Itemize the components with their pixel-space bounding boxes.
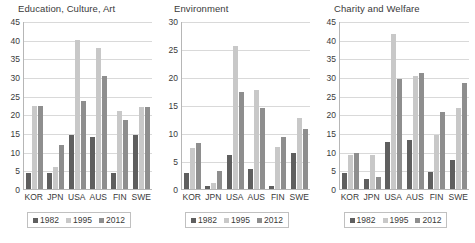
y-axis-tick: 20: [11, 110, 20, 120]
bar: [227, 155, 232, 189]
y-axis: 051015202530354045: [316, 22, 338, 190]
y-axis-tick: 35: [11, 54, 20, 64]
bar: [385, 142, 390, 189]
bar: [32, 106, 37, 189]
legend-item[interactable]: 1995: [224, 215, 250, 225]
bar-group: [67, 22, 88, 189]
y-axis-tick: 10: [327, 148, 336, 158]
plot-area: 051015202530354045: [316, 22, 475, 190]
bar: [96, 48, 101, 189]
bar-group: [225, 22, 246, 189]
bar: [53, 167, 58, 189]
bar: [190, 148, 195, 189]
plot-area: 051015202530354045: [0, 22, 158, 190]
legend-swatch-icon: [33, 218, 38, 223]
bar: [462, 83, 467, 189]
legend-swatch-icon: [66, 218, 71, 223]
y-axis-tick: 30: [169, 17, 178, 27]
bars-container: [24, 22, 152, 189]
legend-item[interactable]: 1995: [383, 215, 409, 225]
y-axis-tick: 35: [327, 54, 336, 64]
x-axis: KORJPNUSAAUSFINSWE: [23, 192, 152, 202]
legend-label: 1995: [231, 215, 250, 225]
legend-box: 198219952012: [185, 212, 289, 228]
y-axis-tick: 40: [327, 36, 336, 46]
bar: [205, 186, 210, 189]
y-axis-tick: 0: [331, 185, 336, 195]
y-axis-tick: 20: [169, 73, 178, 83]
legend: 198219952012: [0, 212, 158, 228]
legend-item[interactable]: 1995: [66, 215, 92, 225]
bar: [303, 129, 308, 189]
legend-swatch-icon: [415, 218, 420, 223]
y-axis: 051015202530: [158, 22, 180, 190]
x-axis-label: FIN: [109, 192, 131, 202]
bar-group: [448, 22, 470, 189]
bar-group: [267, 22, 288, 189]
legend-item[interactable]: 1982: [350, 215, 376, 225]
bar: [428, 172, 433, 189]
chart-title: Charity and Welfare: [316, 3, 475, 14]
bar-group: [182, 22, 203, 189]
legend-label: 2012: [422, 215, 441, 225]
bar: [450, 160, 455, 189]
chart-panel: Environment051015202530KORJPNUSAAUSFINSW…: [158, 0, 316, 243]
x-axis-label: KOR: [339, 192, 361, 202]
y-axis-tick: 25: [11, 92, 20, 102]
y-axis-tick: 5: [15, 166, 20, 176]
bar: [111, 173, 116, 189]
bar: [275, 147, 280, 189]
bar: [291, 153, 296, 189]
bar: [269, 186, 274, 189]
plot-box: [181, 22, 310, 190]
legend-box: 198219952012: [27, 212, 131, 228]
bar: [38, 106, 43, 189]
bar-group: [246, 22, 267, 189]
y-axis-tick: 25: [327, 92, 336, 102]
legend-item[interactable]: 2012: [415, 215, 441, 225]
x-axis-label: JPN: [361, 192, 383, 202]
bar: [211, 183, 216, 189]
bar: [133, 135, 138, 190]
plot-box: [23, 22, 152, 190]
legend-swatch-icon: [224, 218, 229, 223]
bar: [139, 107, 144, 189]
chart-panel: Charity and Welfare051015202530354045KOR…: [316, 0, 475, 243]
bar-group: [88, 22, 109, 189]
bar: [102, 76, 107, 189]
bar: [217, 171, 222, 189]
y-axis-tick: 0: [15, 185, 20, 195]
x-axis-label: AUS: [404, 192, 426, 202]
y-axis-tick: 25: [169, 45, 178, 55]
bar: [81, 101, 86, 189]
bar: [184, 173, 189, 189]
x-axis-label: USA: [224, 192, 246, 202]
bar: [391, 34, 396, 189]
legend-item[interactable]: 1982: [191, 215, 217, 225]
y-axis-tick: 45: [327, 17, 336, 27]
chart-group: Education, Culture, Art05101520253035404…: [0, 0, 475, 243]
x-axis-label: SWE: [447, 192, 469, 202]
bar: [248, 169, 253, 189]
bar: [407, 140, 412, 189]
legend-label: 1982: [357, 215, 376, 225]
bar: [260, 108, 265, 189]
bar: [233, 46, 238, 189]
legend-item[interactable]: 2012: [257, 215, 283, 225]
y-axis-tick: 30: [327, 73, 336, 83]
chart-title: Education, Culture, Art: [0, 3, 158, 14]
legend-item[interactable]: 2012: [99, 215, 125, 225]
chart-title: Environment: [158, 3, 316, 14]
legend-swatch-icon: [99, 218, 104, 223]
x-axis-label: SWE: [131, 192, 153, 202]
x-axis: KORJPNUSAAUSFINSWE: [181, 192, 310, 202]
bar: [281, 137, 286, 189]
legend-item[interactable]: 1982: [33, 215, 59, 225]
bar: [342, 173, 347, 189]
legend-label: 1995: [73, 215, 92, 225]
y-axis-tick: 45: [11, 17, 20, 27]
bar: [26, 173, 31, 189]
y-axis-tick: 0: [173, 185, 178, 195]
y-axis-tick: 10: [169, 129, 178, 139]
y-axis-tick: 15: [327, 129, 336, 139]
